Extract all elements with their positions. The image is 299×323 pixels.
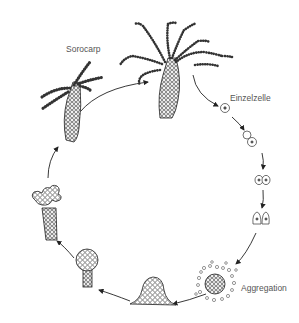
- life-cycle-diagram: [0, 0, 299, 323]
- arrow-division-to-aggregation: [236, 233, 256, 264]
- label-aggregation: Aggregation: [241, 283, 287, 293]
- label-sorocarp: Sorocarp: [66, 44, 101, 54]
- arrow-early-to-branching: [57, 241, 74, 258]
- early-fruiting-body: [76, 249, 98, 287]
- cell-division-3: [253, 212, 269, 224]
- branching-fruiting-body: [32, 185, 61, 240]
- mound: [130, 277, 176, 305]
- label-single-cell: Einzelzelle: [230, 93, 271, 103]
- arrow-mature-to-single-cell: [193, 75, 218, 106]
- arrow-mound-to-early: [99, 290, 130, 301]
- arrow-division-1-to-2: [262, 153, 263, 169]
- sorocarp: [42, 62, 104, 142]
- single-cell: [221, 104, 230, 113]
- arrow-division-2-to-3: [262, 190, 263, 208]
- mature-fruiting-body: [120, 23, 232, 118]
- cell-division-2: [255, 175, 270, 184]
- arrow-branching-to-sorocarp: [48, 147, 58, 178]
- arrow-sorocarp-to-mature: [80, 82, 148, 112]
- arrow-aggregation-to-mound: [173, 294, 206, 304]
- arrow-single-cell-to-division: [232, 117, 244, 130]
- cell-division-1: [243, 131, 257, 147]
